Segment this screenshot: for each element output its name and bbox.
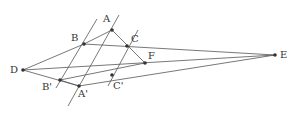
label-c-prime: C'	[113, 81, 123, 91]
point-b	[82, 42, 86, 46]
segment-ba-prime	[60, 80, 79, 86]
label-d: D	[10, 65, 18, 75]
label-b: B	[71, 33, 78, 43]
label-c: C	[131, 34, 139, 44]
point-f	[143, 61, 147, 65]
line-be	[84, 44, 275, 55]
label-b-prime: B'	[42, 82, 52, 92]
label-a: A	[103, 14, 110, 24]
point-a	[110, 28, 114, 32]
label-f: F	[148, 51, 155, 61]
label-e: E	[280, 50, 287, 60]
label-a-prime: A'	[78, 89, 88, 99]
diagram-lines	[0, 0, 291, 115]
point-e	[273, 53, 277, 57]
point-d	[21, 68, 25, 72]
segment-ba	[84, 30, 112, 44]
diagram: A B C D E F A' B' C'	[0, 0, 291, 115]
point-b-prime	[58, 78, 62, 82]
point-c	[125, 44, 129, 48]
point-c-prime	[110, 73, 114, 77]
